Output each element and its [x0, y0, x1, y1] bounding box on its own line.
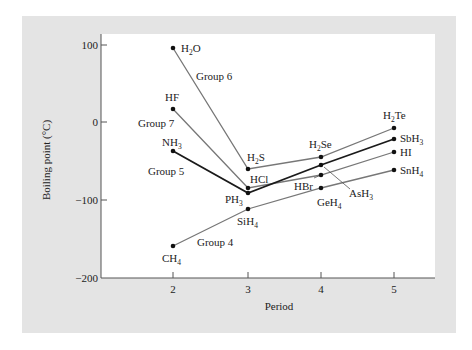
x-tick-5: 5	[391, 283, 397, 295]
y-tick-0: 0	[93, 116, 99, 128]
label-group-5: Group 5	[148, 165, 185, 177]
marker-hf	[171, 107, 176, 112]
plot-area	[101, 34, 435, 278]
marker-ch4	[171, 244, 176, 249]
y-tick-labels: 100 0 −100 −200	[75, 39, 98, 284]
label-group-6: Group 6	[196, 70, 233, 82]
label-hbr: HBr	[294, 180, 313, 192]
marker-sbh3	[392, 137, 397, 142]
marker-h2s	[246, 167, 251, 172]
boiling-point-chart: 100 0 −100 −200 2 3 4 5 Period Boiling p…	[0, 0, 472, 350]
marker-h2te	[392, 126, 397, 131]
label-hi: HI	[400, 146, 412, 158]
marker-hcl	[246, 186, 251, 191]
x-tick-4: 4	[318, 283, 324, 295]
x-axis-title: Period	[265, 300, 294, 312]
marker-snh4	[392, 168, 397, 173]
marker-sih4	[246, 207, 251, 212]
y-axis-title: Boiling point (°C)	[40, 120, 53, 201]
x-tick-3: 3	[245, 283, 251, 295]
y-tick-minus-100: −100	[75, 194, 98, 206]
x-tick-labels: 2 3 4 5	[170, 283, 397, 295]
marker-h2o	[171, 46, 176, 51]
marker-geh4	[319, 186, 324, 191]
marker-h2se	[319, 155, 324, 160]
marker-ash3	[319, 163, 324, 168]
x-tick-2: 2	[170, 283, 176, 295]
label-hf: HF	[165, 91, 179, 103]
y-tick-minus-200: −200	[75, 272, 98, 284]
y-tick-100: 100	[82, 39, 99, 51]
label-group-4: Group 4	[197, 236, 234, 248]
label-group-7: Group 7	[138, 117, 175, 129]
marker-hi	[392, 150, 397, 155]
label-hcl: HCl	[250, 173, 268, 185]
marker-nh3	[171, 149, 176, 154]
marker-hbr	[319, 173, 324, 178]
marker-ph3	[246, 191, 251, 196]
